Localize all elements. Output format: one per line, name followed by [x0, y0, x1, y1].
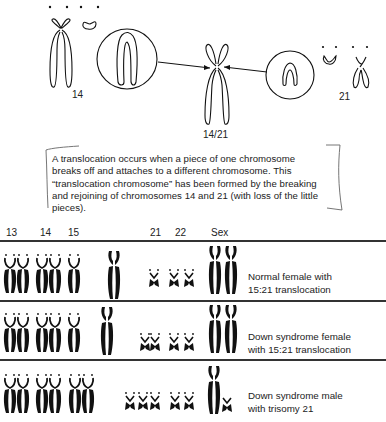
row-2-label-line2: with 15:21 translocation: [248, 343, 351, 356]
karyotype-row-3: [4, 366, 232, 414]
karyotype-row-2: [4, 305, 237, 355]
column-header-sex: Sex: [211, 227, 228, 238]
divider-header: [0, 240, 386, 242]
caption-text: A translocation occurs when a piece of o…: [52, 153, 322, 214]
arrow-left-to-center-icon: [158, 62, 210, 70]
divider-row-2: [0, 359, 386, 361]
row-3-label-line1: Down syndrome male: [248, 389, 343, 402]
row-1-label: Normal female with 15:21 translocation: [248, 270, 332, 296]
label-chromosome-14: 14: [72, 89, 83, 100]
row-2-label: Down syndrome female with 15:21 transloc…: [248, 330, 351, 356]
column-header-15: 15: [68, 227, 79, 238]
row-3-label: Down syndrome male with trisomy 21: [248, 389, 343, 415]
translocation-chromosome-icon: [205, 44, 229, 124]
row-2-label-line1: Down syndrome female: [248, 330, 351, 343]
divider-row-1: [0, 300, 386, 302]
column-header-13: 13: [6, 227, 17, 238]
row-1-label-line1: Normal female with: [248, 270, 332, 283]
magnified-short-arm-icon: [266, 51, 314, 99]
row-3-label-line2: with trisomy 21: [248, 402, 343, 415]
label-chromosome-14-21: 14/21: [203, 129, 228, 140]
column-header-22: 22: [175, 227, 186, 238]
chromosome-21-icon: [322, 46, 369, 88]
column-header-14: 14: [40, 227, 51, 238]
label-chromosome-21: 21: [339, 91, 350, 102]
karyotype-row-1: [4, 246, 237, 299]
magnified-long-arm-icon: [97, 29, 157, 89]
row-1-label-line2: 15:21 translocation: [248, 283, 332, 296]
chromosome-14-icon: [49, 6, 99, 87]
arrow-right-to-center-icon: [224, 65, 267, 72]
column-header-21: 21: [150, 227, 161, 238]
